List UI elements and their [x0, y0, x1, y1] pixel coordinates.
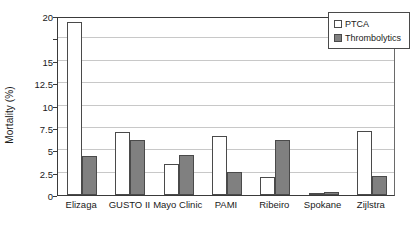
legend-label: Thrombolytics — [345, 33, 401, 43]
y-axis-tick — [53, 84, 57, 85]
y-axis-tick-label: 0 — [19, 191, 53, 202]
legend-item: PTCA — [334, 17, 405, 30]
legend-label: PTCA — [345, 19, 369, 29]
x-axis-labels: ElizagaGUSTO IIMayo ClinicPAMIRibeiroSpo… — [57, 199, 395, 219]
legend-swatch-ptca — [334, 20, 342, 28]
y-axis-tick — [53, 196, 57, 197]
bar-ptca — [164, 164, 179, 195]
bar-thromb — [227, 172, 242, 195]
x-axis-tick-label: Mayo Clinic — [153, 199, 202, 210]
y-axis-tick-label: 12.5 — [19, 79, 53, 90]
bar-thromb — [275, 140, 290, 195]
y-axis-tick-label: 5 — [19, 146, 53, 157]
y-axis-tick — [53, 151, 57, 152]
x-axis-tick-label: Elizaga — [66, 199, 97, 210]
bar-thromb — [372, 176, 387, 195]
bar-ptca — [212, 136, 227, 195]
x-axis-tick-label: GUSTO II — [109, 199, 151, 210]
bar-thromb — [324, 192, 339, 195]
y-axis-tick-label: 20 — [19, 12, 53, 23]
bar-ptca — [260, 177, 275, 195]
y-axis-tick-label: 7.5 — [19, 123, 53, 134]
y-axis-tick — [53, 129, 57, 130]
y-axis-tick — [53, 62, 57, 63]
x-axis-tick-label: PAMI — [215, 199, 238, 210]
bar-thromb — [82, 156, 97, 195]
y-axis-tick-label: 2.5 — [19, 168, 53, 179]
y-axis-labels: 02.557.51012.51520 — [14, 0, 53, 230]
bar-ptca — [357, 131, 372, 195]
bar-ptca — [67, 22, 82, 195]
y-axis-tick — [53, 107, 57, 108]
x-axis-tick-label: Spokane — [304, 199, 342, 210]
y-axis-tick — [53, 174, 57, 175]
x-axis-tick-label: Zijlstra — [357, 199, 385, 210]
y-axis-tick-label: 15 — [19, 56, 53, 67]
y-axis-tick — [53, 39, 57, 40]
x-axis-tick-label: Ribeiro — [259, 199, 289, 210]
chart-legend: PTCAThrombolytics — [328, 12, 410, 49]
y-axis-tick — [53, 17, 57, 18]
bar-thromb — [130, 140, 145, 195]
bar-ptca — [309, 193, 324, 195]
bar-thromb — [179, 155, 194, 195]
mortality-bar-chart: Mortality (%) 02.557.51012.51520 Elizaga… — [0, 0, 415, 230]
bar-ptca — [115, 132, 130, 195]
y-axis-tick-label: 10 — [19, 101, 53, 112]
legend-item: Thrombolytics — [334, 31, 405, 44]
legend-swatch-thromb — [334, 34, 342, 42]
